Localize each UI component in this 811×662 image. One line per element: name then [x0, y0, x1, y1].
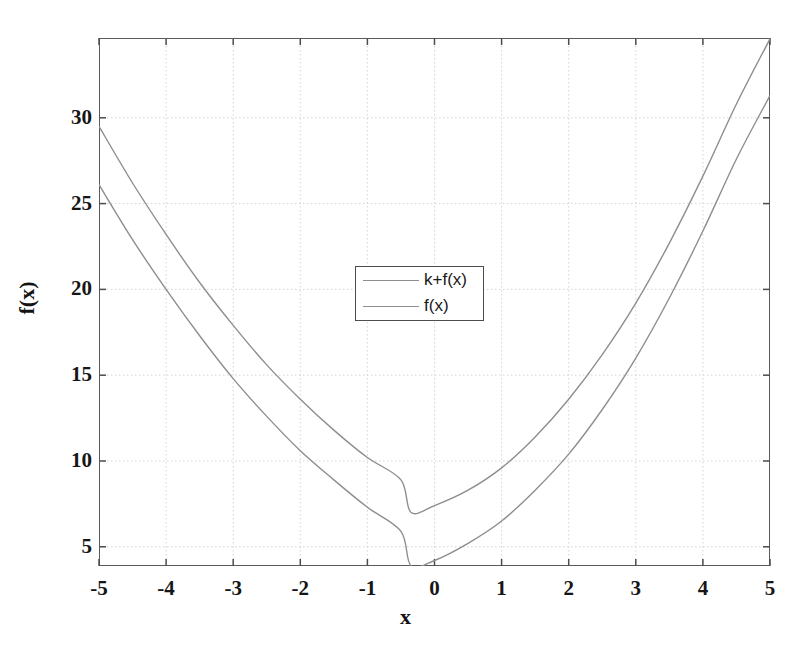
legend-box: k+f(x) f(x) — [355, 266, 484, 321]
y-tick-label: 20 — [58, 278, 92, 299]
legend-line-icon — [363, 280, 419, 281]
y-tick-label: 15 — [58, 364, 92, 385]
x-tick-label: -1 — [347, 578, 387, 599]
figure-canvas: 51015202530 -5-4-3-2-1012345 x f(x) k+f(… — [0, 0, 811, 662]
legend-entry-label: f(x) — [424, 296, 449, 316]
x-tick-label: 1 — [482, 578, 522, 599]
x-axis-label: x — [0, 604, 811, 630]
x-tick-label: -2 — [280, 578, 320, 599]
y-axis-label: f(x) — [14, 253, 40, 343]
x-tick-label: 0 — [415, 578, 455, 599]
x-tick-label: 4 — [683, 578, 723, 599]
x-tick-label: 3 — [616, 578, 656, 599]
legend-line-icon — [363, 306, 419, 307]
x-tick-label: -5 — [79, 578, 119, 599]
y-tick-label: 10 — [58, 450, 92, 471]
x-tick-label: -3 — [213, 578, 253, 599]
x-tick-label: 2 — [549, 578, 589, 599]
y-tick-label: 30 — [58, 107, 92, 128]
x-tick-label: -4 — [146, 578, 186, 599]
x-tick-label: 5 — [750, 578, 790, 599]
legend-entry: f(x) — [356, 293, 485, 320]
legend-entry-label: k+f(x) — [424, 270, 467, 290]
y-tick-label: 5 — [58, 536, 92, 557]
legend-entry: k+f(x) — [356, 267, 485, 294]
y-tick-label: 25 — [58, 193, 92, 214]
